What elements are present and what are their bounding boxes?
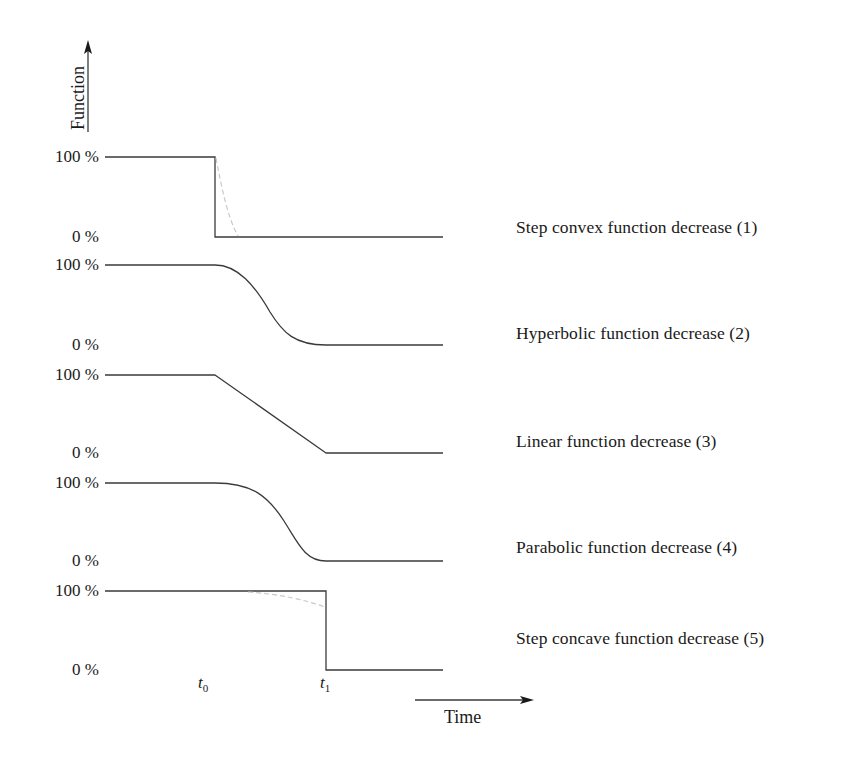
panel-2-label: Hyperbolic function decrease (2): [516, 323, 750, 344]
x-axis-arrow: [415, 696, 534, 704]
panel-4-tick-high: 100 %: [25, 473, 99, 493]
panel-1-tick-low: 0 %: [25, 227, 99, 247]
panel-5-label: Step concave function decrease (5): [516, 628, 764, 649]
panel-1-curve-step-convex: [105, 157, 443, 237]
panel-3-tick-high: 100 %: [25, 365, 99, 385]
panel-1-guide-curve: [216, 158, 238, 236]
panel-5-curve-step-concave: [105, 591, 443, 670]
panel-4-curve-parabolic: [105, 483, 443, 561]
panel-5-tick-low: 0 %: [25, 660, 99, 680]
panel-1-label: Step convex function decrease (1): [516, 217, 757, 238]
panel-2-tick-high: 100 %: [25, 255, 99, 275]
panel-3-label: Linear function decrease (3): [516, 431, 717, 452]
panel-1-tick-high: 100 %: [25, 147, 99, 167]
panel-2-tick-low: 0 %: [25, 335, 99, 355]
panel-3-tick-low: 0 %: [25, 443, 99, 463]
panel-5-tick-high: 100 %: [25, 581, 99, 601]
x-tick-t1-subscript: 1: [325, 682, 331, 694]
panel-5-guide-curve: [248, 592, 325, 607]
x-tick-t0: t0: [198, 673, 208, 694]
y-axis-label: Function: [68, 66, 89, 130]
panel-2-curve-hyperbolic: [105, 265, 443, 345]
panel-4-label: Parabolic function decrease (4): [516, 537, 737, 558]
x-tick-t1: t1: [320, 673, 330, 694]
x-tick-t0-subscript: 0: [203, 682, 209, 694]
x-axis-label: Time: [444, 707, 481, 728]
panel-4-tick-low: 0 %: [25, 551, 99, 571]
panel-3-curve-linear: [105, 375, 443, 453]
